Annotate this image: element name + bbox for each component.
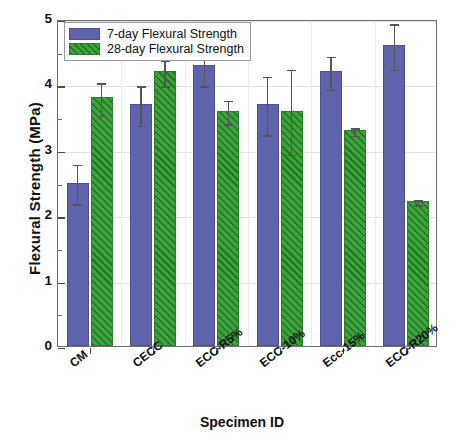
y-tick-label: 2 bbox=[28, 207, 52, 222]
plot-area bbox=[57, 20, 437, 347]
flexural-strength-bar-chart: Flexural Strength (MPa) Specimen ID 0123… bbox=[0, 0, 466, 441]
legend-label-28day: 28-day Flexural Strength bbox=[107, 42, 244, 56]
grid-line-vertical bbox=[185, 21, 186, 346]
error-bar-cap-lower bbox=[161, 86, 170, 87]
bar-ecc-r5--28day bbox=[217, 111, 239, 346]
grid-line-vertical bbox=[375, 21, 376, 346]
y-tick-label: 5 bbox=[28, 11, 52, 26]
error-bar-cap-lower bbox=[97, 116, 106, 117]
error-bar-cap-upper bbox=[287, 70, 296, 71]
y-tick-label: 4 bbox=[28, 76, 52, 91]
y-tick-label: 3 bbox=[28, 142, 52, 157]
error-bar-stem bbox=[267, 77, 268, 136]
error-bar-cap-upper bbox=[137, 86, 146, 87]
legend-item-7day: 7-day Flexural Strength bbox=[69, 27, 244, 41]
y-tick-minor bbox=[58, 54, 62, 55]
error-bar-cap-upper bbox=[224, 101, 233, 102]
error-bar-stem bbox=[101, 83, 102, 116]
error-bar-cap-lower bbox=[327, 90, 336, 91]
error-bar-cap-lower bbox=[287, 155, 296, 156]
grid-line bbox=[58, 86, 436, 87]
error-bar-cap-lower bbox=[200, 86, 209, 87]
legend-swatch-28day bbox=[69, 43, 100, 55]
error-bar-stem bbox=[228, 101, 229, 125]
error-bar-cap-upper bbox=[73, 165, 82, 166]
error-bar-stem bbox=[164, 60, 165, 86]
error-bar-cap-lower bbox=[351, 136, 360, 137]
error-bar-cap-upper bbox=[327, 57, 336, 58]
x-axis-title: Specimen ID bbox=[47, 414, 437, 430]
bar-ecc-r20--7day bbox=[383, 45, 405, 346]
y-tick-major bbox=[58, 348, 65, 349]
grid-line bbox=[58, 283, 436, 284]
error-bar-cap-lower bbox=[73, 204, 82, 205]
error-bar-cap-lower bbox=[390, 70, 399, 71]
legend-item-28day: 28-day Flexural Strength bbox=[69, 42, 244, 56]
bar-ecc-10--7day bbox=[257, 104, 279, 346]
y-tick-major bbox=[58, 86, 65, 87]
grid-line-vertical bbox=[311, 21, 312, 346]
grid-line-vertical bbox=[248, 21, 249, 346]
grid-line-vertical bbox=[121, 21, 122, 346]
error-bar-stem bbox=[140, 86, 141, 125]
x-tick-label: CM bbox=[67, 348, 90, 371]
y-tick-minor bbox=[58, 185, 62, 186]
chart-legend: 7-day Flexural Strength 28-day Flexural … bbox=[64, 22, 251, 61]
x-tick bbox=[90, 348, 91, 354]
bar-ecc-r5--7day bbox=[193, 65, 215, 346]
bar-cm-28day bbox=[91, 97, 113, 346]
error-bar-stem bbox=[77, 165, 78, 204]
error-bar-cap-lower bbox=[263, 135, 272, 136]
y-tick-minor bbox=[58, 119, 62, 120]
y-tick-label: 1 bbox=[28, 273, 52, 288]
error-bar-cap-lower bbox=[224, 124, 233, 125]
y-tick-major bbox=[58, 152, 65, 153]
y-tick-major bbox=[58, 217, 65, 218]
y-tick-label: 0 bbox=[28, 338, 52, 353]
error-bar-cap-upper bbox=[263, 77, 272, 78]
error-bar-cap-upper bbox=[390, 24, 399, 25]
bar-ecc-15--28day bbox=[344, 130, 366, 346]
y-tick-minor bbox=[58, 250, 62, 251]
legend-swatch-7day bbox=[69, 28, 100, 40]
error-bar-stem bbox=[394, 24, 395, 70]
error-bar-cap-upper bbox=[351, 128, 360, 129]
grid-line bbox=[58, 152, 436, 153]
error-bar-cap-upper bbox=[414, 200, 423, 201]
bar-cecc-28day bbox=[154, 71, 176, 346]
error-bar-stem bbox=[291, 70, 292, 155]
bar-cecc-7day bbox=[130, 104, 152, 346]
grid-line bbox=[58, 217, 436, 218]
legend-label-7day: 7-day Flexural Strength bbox=[107, 27, 237, 41]
error-bar-stem bbox=[330, 57, 331, 90]
error-bar-cap-lower bbox=[137, 126, 146, 127]
y-tick-minor bbox=[58, 315, 62, 316]
bar-ecc-15--7day bbox=[320, 71, 342, 346]
error-bar-cap-upper bbox=[97, 83, 106, 84]
y-tick-major bbox=[58, 283, 65, 284]
error-bar-cap-lower bbox=[414, 205, 423, 206]
bar-cm-7day bbox=[67, 183, 89, 347]
